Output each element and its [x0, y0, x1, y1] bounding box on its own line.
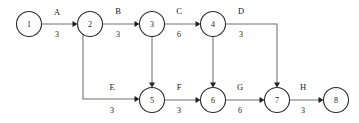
arrowhead-icon [135, 96, 140, 102]
arrowhead-icon [260, 97, 265, 103]
edge-eDummy46 [210, 37, 216, 88]
edge-name-label: G [237, 82, 243, 92]
node-number-label: 7 [275, 96, 279, 105]
edge-a [42, 21, 78, 27]
edge-weight-label: 3 [177, 106, 181, 115]
edge-weight-label: 6 [177, 30, 181, 39]
node-number-label: 4 [211, 20, 215, 29]
edge-weight-label: 3 [55, 30, 59, 39]
node-number-label: 1 [27, 20, 31, 29]
nodes-layer: 12345678 [17, 12, 349, 113]
arrowhead-icon [135, 21, 140, 27]
node-8[interactable]: 8 [324, 88, 349, 113]
node-2[interactable]: 2 [78, 12, 103, 37]
edge-weight-label: 3 [301, 106, 305, 115]
edge-line [226, 24, 278, 85]
edge-name-label: H [300, 82, 306, 92]
node-6[interactable]: 6 [201, 88, 226, 113]
arrowhead-icon [196, 21, 201, 27]
edge-name-label: E [109, 82, 114, 92]
arrowhead-icon [73, 21, 78, 27]
node-5[interactable]: 5 [140, 88, 165, 113]
edge-name-label: B [115, 6, 121, 16]
edge-weight-label: 3 [239, 30, 243, 39]
arrowhead-icon [149, 83, 155, 88]
edge-name-label: F [177, 82, 182, 92]
node-3[interactable]: 3 [140, 12, 165, 37]
edge-d [226, 24, 281, 88]
edge-c [165, 21, 201, 27]
node-1[interactable]: 1 [17, 12, 42, 37]
network-diagram-canvas: 12345678 A3B3C6D3E3F3G6H3 [0, 0, 359, 123]
edge-weight-label: 6 [238, 106, 242, 115]
node-number-label: 3 [150, 20, 154, 29]
edge-h [290, 97, 324, 103]
network-diagram: 12345678 A3B3C6D3E3F3G6H3 [0, 0, 359, 123]
node-number-label: 5 [150, 96, 154, 105]
edge-weight-label: 3 [110, 106, 114, 115]
arrowhead-icon [319, 97, 324, 103]
edge-f [165, 97, 201, 103]
edge-name-label: D [238, 6, 244, 16]
edge-g [226, 97, 265, 103]
edge-b [103, 21, 140, 27]
edge-eDummy35 [149, 37, 155, 88]
node-number-label: 2 [88, 20, 92, 29]
arrowhead-icon [210, 83, 216, 88]
edge-name-label: C [176, 6, 182, 16]
node-4[interactable]: 4 [201, 12, 226, 37]
node-number-label: 6 [211, 96, 215, 105]
edge-weight-label: 3 [116, 30, 120, 39]
node-number-label: 8 [334, 96, 338, 105]
arrowhead-icon [196, 97, 201, 103]
edge-name-label: A [54, 7, 61, 17]
arrowhead-icon [274, 83, 280, 88]
node-7[interactable]: 7 [265, 88, 290, 113]
